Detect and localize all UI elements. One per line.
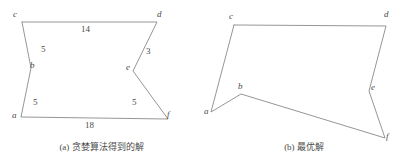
edge-weight-b-a: 5 bbox=[33, 98, 38, 107]
vertex-label-a: a bbox=[204, 107, 209, 116]
vertex-label-c: c bbox=[229, 12, 233, 21]
vertex-label-b: b bbox=[30, 61, 35, 70]
vertex-label-e: e bbox=[126, 63, 130, 72]
vertex-label-b: b bbox=[238, 82, 243, 91]
edge-weight-e-d: 3 bbox=[146, 47, 151, 56]
vertex-label-c: c bbox=[13, 10, 17, 19]
vertex-label-f: f bbox=[386, 132, 389, 141]
caption-panel-b: (b) 最优解 bbox=[203, 143, 405, 153]
graph-drawing-optimal bbox=[203, 0, 405, 150]
tour-path-greedy bbox=[21, 22, 168, 119]
vertex-label-e: e bbox=[371, 83, 375, 92]
vertex-label-d: d bbox=[384, 10, 389, 19]
edge-weight-f-e: 5 bbox=[132, 98, 137, 107]
vertex-label-a: a bbox=[12, 111, 17, 120]
caption-panel-a: (a) 贪婪算法得到的解 bbox=[0, 143, 203, 153]
edge-weight-c-d: 14 bbox=[81, 25, 90, 34]
graph-drawing-greedy bbox=[0, 0, 203, 140]
edge-weight-c-b: 5 bbox=[41, 45, 46, 54]
figure-container: c d b e a f 14 5 5 18 5 3 c d b e a f (a… bbox=[0, 0, 405, 166]
edge-weight-a-f: 18 bbox=[85, 121, 94, 130]
vertex-label-f: f bbox=[167, 110, 170, 119]
vertex-label-d: d bbox=[157, 10, 162, 19]
